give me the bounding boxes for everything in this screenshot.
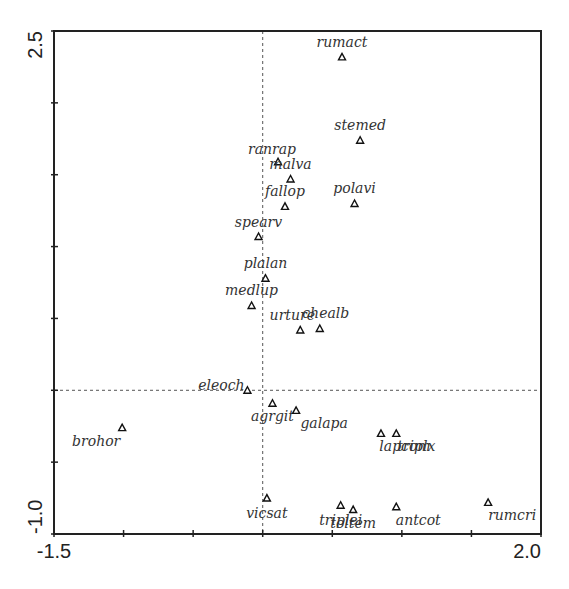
triangle-marker-icon (297, 326, 304, 333)
point-label: medlup (225, 282, 278, 298)
data-point-rumact: rumact (317, 34, 368, 60)
triangle-marker-icon (255, 233, 262, 240)
point-label: spearv (235, 214, 282, 230)
point-label: triplx (397, 438, 435, 454)
triangle-marker-icon (337, 502, 344, 509)
triangle-marker-icon (485, 499, 492, 506)
y-axis-max-label: 2.5 (24, 31, 46, 59)
plot-frame (54, 31, 541, 534)
triangle-marker-icon (287, 176, 294, 183)
triangle-marker-icon (357, 137, 364, 144)
data-point-fallop: fallop (264, 183, 305, 209)
x-axis-min-label: -1.5 (37, 540, 71, 562)
point-label: toltem (330, 515, 376, 531)
point-label: galapa (300, 415, 347, 431)
triangle-marker-icon (339, 53, 346, 60)
data-point-vicsat: vicsat (246, 495, 288, 521)
point-label: chealb (302, 305, 349, 321)
ordination-scatter-plot: rumactstemedranrapmalvafalloppolavispear… (0, 0, 569, 589)
data-point-medlup: medlup (225, 282, 278, 308)
point-label: plalan (244, 255, 288, 271)
point-label: rumcri (488, 507, 536, 523)
point-label: agrgit (251, 408, 294, 424)
x-axis-max-label: 2.0 (513, 540, 541, 562)
data-point-polavi: polavi (333, 180, 376, 206)
data-point-brohor: brohor (72, 424, 126, 449)
data-point-rumcri: rumcri (485, 499, 537, 524)
point-label: rumact (317, 34, 368, 50)
triangle-marker-icon (350, 506, 357, 512)
triangle-marker-icon (393, 430, 400, 437)
point-label: vicsat (246, 505, 288, 521)
point-label: ranrap (248, 141, 296, 157)
data-point-eleoch: eleoch (198, 377, 251, 393)
triangle-marker-icon (119, 424, 126, 431)
triangle-marker-icon (262, 275, 269, 282)
triangle-marker-icon (377, 430, 384, 437)
data-point-spearv: spearv (235, 214, 282, 240)
triangle-marker-icon (316, 325, 323, 332)
data-point-triplx: triplx (393, 430, 436, 455)
triangle-marker-icon (263, 495, 270, 502)
triangle-marker-icon (393, 503, 400, 510)
point-label: eleoch (198, 377, 244, 393)
point-label: malva (269, 156, 311, 172)
data-point-chealb: chealb (302, 305, 349, 331)
point-label: polavi (333, 180, 376, 196)
species-points: rumactstemedranrapmalvafalloppolavispear… (72, 34, 536, 531)
data-point-stemed: stemed (334, 117, 386, 143)
point-label: stemed (334, 117, 386, 133)
point-label: fallop (264, 183, 305, 199)
y-axis-min-label: -1.0 (24, 500, 46, 534)
triangle-marker-icon (244, 387, 251, 394)
data-point-galapa: galapa (293, 407, 348, 432)
point-label: antcot (396, 512, 441, 528)
axis-ticks (51, 31, 541, 537)
triangle-marker-icon (351, 200, 358, 207)
triangle-marker-icon (269, 400, 276, 407)
data-point-plalan: plalan (244, 255, 288, 281)
data-point-agrgit: agrgit (251, 400, 294, 425)
data-point-toltem: toltem (330, 506, 376, 530)
point-label: brohor (72, 433, 122, 449)
origin-reference-lines (54, 31, 541, 534)
triangle-marker-icon (281, 203, 288, 210)
triangle-marker-icon (248, 302, 255, 309)
data-point-antcot: antcot (393, 503, 441, 528)
data-point-malva: malva (269, 156, 311, 182)
